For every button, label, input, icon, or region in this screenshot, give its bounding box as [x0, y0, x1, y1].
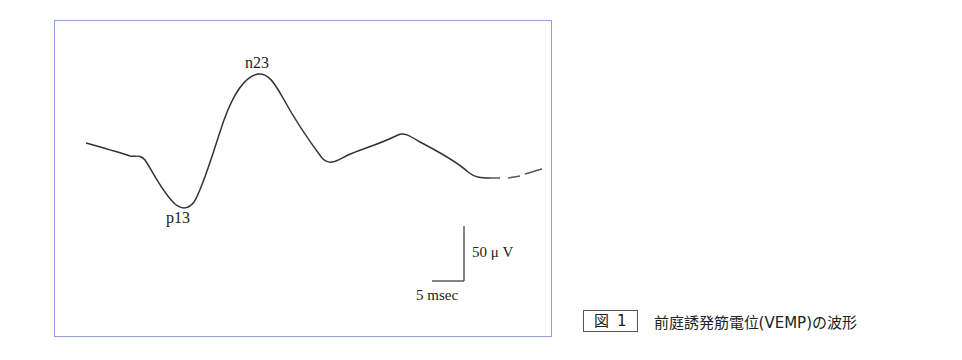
figure-number-box: 図 1: [583, 310, 638, 332]
trough-label-p13: p13: [166, 209, 190, 227]
figure-number: 1: [617, 310, 627, 332]
figure-caption: 図 1 前庭誘発筋電位(VEMP)の波形: [583, 309, 857, 333]
time-scale-label: 5 msec: [416, 287, 458, 304]
waveform-trace: [86, 74, 490, 208]
peak-label-n23: n23: [245, 54, 269, 72]
voltage-scale-label: 50 μ V: [472, 244, 513, 261]
figure-word: 図: [594, 310, 609, 332]
figure-title: 前庭誘発筋電位(VEMP)の波形: [654, 311, 857, 332]
vemp-waveform-chart: [0, 0, 962, 360]
waveform-trace-faded-tail: [490, 169, 542, 178]
